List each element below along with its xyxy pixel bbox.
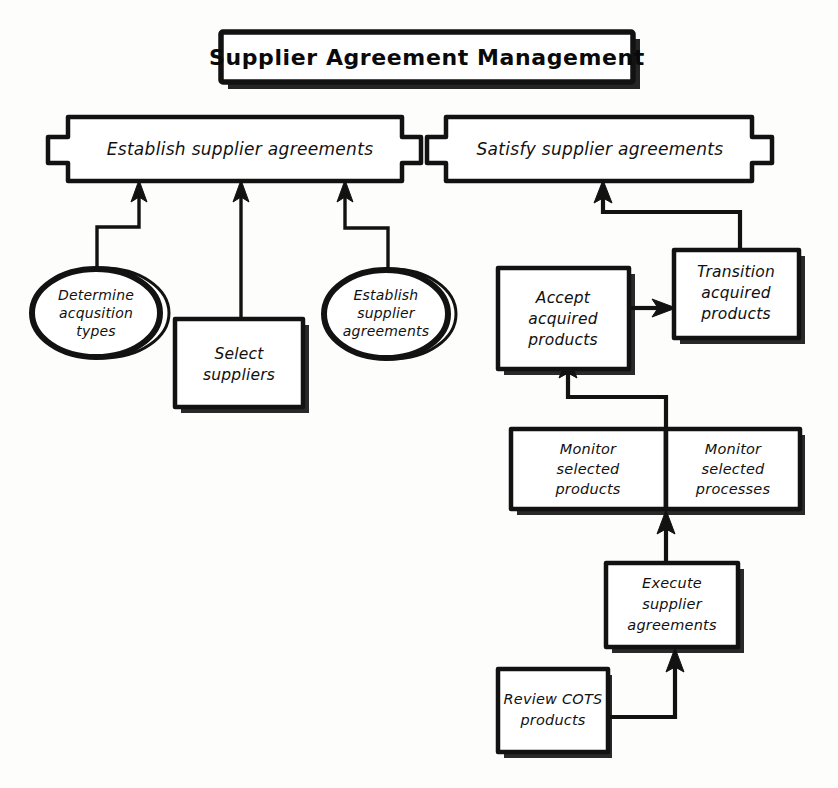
node-label-line-3: processes: [695, 481, 771, 497]
process-area-satisfy-label: Satisfy supplier agreements: [477, 139, 724, 159]
node-label-line-3: products: [554, 481, 620, 497]
edge-transition-to-satisfy: [594, 180, 740, 252]
title-box[interactable]: Supplier Agreement Management: [209, 32, 645, 89]
node-transition-acquired-products[interactable]: Transition acquired products: [674, 250, 805, 344]
node-establish-supplier-agreements[interactable]: Establish supplier agreements: [324, 269, 456, 359]
edge-select-to-establish: [233, 180, 249, 318]
node-label-line-2: selected: [702, 461, 765, 477]
node-execute-supplier-agreements[interactable]: Execute supplier agreements: [606, 563, 744, 653]
node-label-line-2: acquired: [528, 310, 597, 328]
node-determine-acquisition-types[interactable]: Determine acqusition types: [32, 268, 169, 358]
node-monitor-selected-products[interactable]: Monitor selected products: [511, 429, 670, 515]
process-area-satisfy[interactable]: Satisfy supplier agreements: [427, 117, 772, 181]
node-label-line-2: products: [519, 712, 585, 728]
node-label-line-2: supplier: [357, 305, 416, 321]
node-label-line-1: Monitor: [705, 441, 762, 457]
node-label-line-2: suppliers: [203, 366, 275, 384]
node-label-line-1: Execute: [642, 575, 702, 591]
node-label-line-2: acqusition: [59, 305, 133, 321]
process-area-establish-label: Establish supplier agreements: [107, 139, 374, 159]
node-accept-acquired-products[interactable]: Accept acquired products: [498, 268, 635, 375]
node-review-cots-products[interactable]: Review COTS products: [498, 669, 612, 758]
edge-execute-to-monitor: [657, 510, 675, 563]
node-label-line-1: Select: [214, 345, 264, 363]
node-label-line-3: agreements: [627, 617, 717, 633]
node-label-line-2: supplier: [642, 596, 703, 612]
diagram-canvas: Supplier Agreement Management Establish …: [0, 0, 838, 788]
node-label-line-3: agreements: [343, 323, 429, 339]
node-label-line-1: Determine: [58, 287, 134, 303]
node-label-line-1: Review COTS: [504, 691, 603, 707]
process-area-establish[interactable]: Establish supplier agreements: [48, 117, 421, 181]
node-label-line-2: selected: [557, 461, 620, 477]
node-label-line-3: products: [527, 331, 598, 349]
edge-accept-to-transition: [631, 299, 676, 317]
page-title: Supplier Agreement Management: [209, 45, 645, 70]
node-label-line-1: Establish: [354, 287, 419, 303]
node-label-line-1: Transition: [697, 263, 775, 281]
node-monitor-selected-processes[interactable]: Monitor selected processes: [666, 429, 805, 515]
diagram-svg: Supplier Agreement Management Establish …: [0, 0, 838, 788]
edge-review-to-execute: [608, 648, 684, 717]
node-label-line-2: acquired: [701, 284, 770, 302]
node-label-line-3: types: [76, 323, 116, 339]
node-label-line-1: Monitor: [560, 441, 617, 457]
node-select-suppliers[interactable]: Select suppliers: [175, 319, 309, 413]
node-label-line-3: products: [700, 305, 771, 323]
node-label-line-1: Accept: [535, 289, 591, 307]
